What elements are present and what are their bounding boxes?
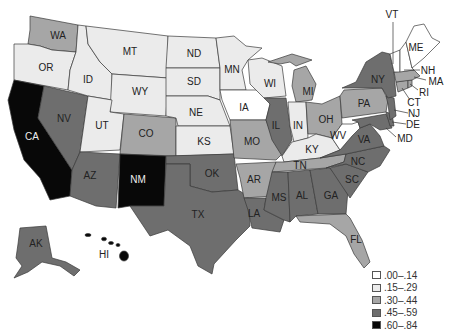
label-KS: KS xyxy=(197,136,211,147)
label-AZ: AZ xyxy=(84,170,97,181)
state-AK[interactable] xyxy=(14,226,80,278)
label-SC: SC xyxy=(345,174,359,185)
label-NE: NE xyxy=(189,107,203,118)
label-VT: VT xyxy=(386,9,399,20)
legend-item: .45–.59 xyxy=(372,307,452,320)
label-TX: TX xyxy=(192,209,205,220)
legend-swatch xyxy=(372,271,381,279)
label-NJ: NJ xyxy=(408,108,420,119)
label-MO: MO xyxy=(244,136,260,147)
label-ID: ID xyxy=(83,74,93,85)
label-CT: CT xyxy=(407,97,420,108)
label-IN: IN xyxy=(293,120,303,131)
label-SD: SD xyxy=(187,76,201,87)
callout-de xyxy=(392,122,406,124)
label-WV: WV xyxy=(330,130,346,141)
label-TN: TN xyxy=(293,160,306,171)
label-UT: UT xyxy=(95,120,108,131)
label-KY: KY xyxy=(305,144,319,155)
legend-label: .45–.59 xyxy=(384,307,417,318)
label-VA: VA xyxy=(358,134,371,145)
label-MD: MD xyxy=(397,133,413,144)
callout-nj xyxy=(394,110,408,113)
label-OR: OR xyxy=(39,62,54,73)
label-DE: DE xyxy=(406,119,420,130)
legend-item: .15–.29 xyxy=(372,282,452,295)
label-MN: MN xyxy=(224,64,240,75)
legend-label: .15–.29 xyxy=(384,282,417,293)
label-CO: CO xyxy=(139,128,154,139)
label-WI: WI xyxy=(264,78,276,89)
label-NV: NV xyxy=(57,113,71,124)
label-MI: MI xyxy=(302,86,313,97)
label-PA: PA xyxy=(358,98,371,109)
label-AL: AL xyxy=(296,190,309,201)
map-legend: .00–.14 .15–.29 .30–.44 .45–.59 .60–.84 xyxy=(372,269,452,332)
label-MA: MA xyxy=(429,76,444,87)
label-ME: ME xyxy=(409,42,424,53)
legend-swatch xyxy=(372,284,381,292)
label-NH: NH xyxy=(421,65,435,76)
callout-md xyxy=(386,128,396,137)
label-MT: MT xyxy=(123,46,137,57)
callout-ma xyxy=(414,77,426,80)
label-HI: HI xyxy=(99,249,109,260)
label-OH: OH xyxy=(319,114,334,125)
label-ND: ND xyxy=(187,48,201,59)
legend-item: .00–.14 xyxy=(372,269,452,282)
callout-ri xyxy=(410,84,418,90)
label-FL: FL xyxy=(350,234,362,245)
label-NY: NY xyxy=(371,74,385,85)
label-WY: WY xyxy=(132,86,148,97)
label-AR: AR xyxy=(247,174,261,185)
legend-swatch xyxy=(372,296,381,304)
label-GA: GA xyxy=(324,190,339,201)
legend-swatch xyxy=(372,309,381,317)
label-NC: NC xyxy=(351,156,365,167)
legend-item: .30–.44 xyxy=(372,294,452,307)
legend-label: .30–.44 xyxy=(384,295,417,306)
label-NM: NM xyxy=(130,174,146,185)
label-MS: MS xyxy=(272,192,287,203)
label-CA: CA xyxy=(25,131,39,142)
label-OK: OK xyxy=(205,168,220,179)
legend-item: .60–.84 xyxy=(372,319,452,332)
legend-label: .60–.84 xyxy=(384,320,417,331)
label-WA: WA xyxy=(50,30,66,41)
legend-label: .00–.14 xyxy=(384,270,417,281)
label-IA: IA xyxy=(239,102,249,113)
label-AK: AK xyxy=(29,238,43,249)
legend-swatch xyxy=(372,321,381,329)
label-LA: LA xyxy=(248,208,261,219)
label-IL: IL xyxy=(272,120,281,131)
